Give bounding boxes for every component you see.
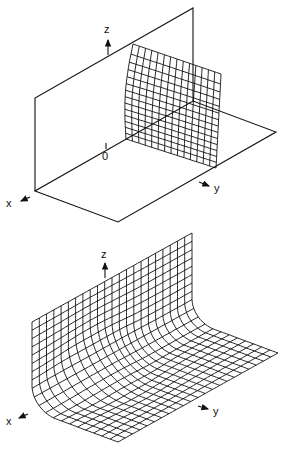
floor-plane-outline	[35, 101, 276, 222]
z-axis-label: z	[104, 23, 110, 35]
x-axis-label: x	[6, 415, 12, 427]
x-axis-arrow-icon	[19, 414, 28, 418]
bottom-figure: z x y	[6, 233, 278, 442]
vertical-plane-outline	[35, 8, 193, 191]
l-shaped-mesh-surface	[32, 233, 278, 442]
diagram-canvas: 0 z x y z x y	[0, 0, 285, 449]
x-axis-arrow-icon	[21, 197, 30, 201]
top-figure: 0 z x y	[6, 8, 276, 222]
y-axis-arrow-icon	[199, 182, 209, 186]
x-axis-label: x	[6, 197, 12, 209]
z-axis-label: z	[101, 248, 107, 260]
mesh-patch	[125, 44, 221, 168]
y-axis-arrow-icon	[198, 406, 208, 409]
y-axis-label: y	[213, 405, 219, 417]
origin-label: 0	[102, 150, 108, 162]
y-axis-label: y	[214, 182, 220, 194]
